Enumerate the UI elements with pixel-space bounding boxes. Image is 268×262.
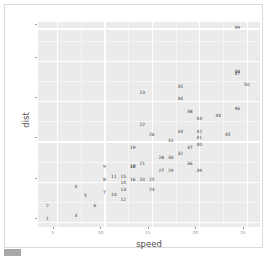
scatter-point-label: 1 xyxy=(46,217,49,221)
gridline-minor-horizontal xyxy=(38,41,260,42)
gridline-major-horizontal xyxy=(38,101,260,102)
scatter-point-label: 30 xyxy=(168,155,174,159)
scatter-point-label: 38 xyxy=(187,110,193,114)
x-axis-tick-label: 15 xyxy=(145,230,150,235)
gridline-major-horizontal xyxy=(38,28,260,29)
y-axis-tick-mark xyxy=(35,137,37,138)
scatter-point-label: 5 xyxy=(84,194,87,198)
scatter-point-label: 31 xyxy=(168,139,174,143)
gridline-major-vertical xyxy=(199,22,200,227)
scatter-point-label: 48 xyxy=(234,70,240,74)
scatter-point-label: 15 xyxy=(121,175,127,179)
y-axis-tick-mark xyxy=(35,24,37,25)
x-axis-tick-label: 10 xyxy=(98,230,103,235)
scatter-point-label: 36 xyxy=(187,162,193,166)
x-axis-tick-mark xyxy=(195,227,196,229)
scatter-point-label: 16 xyxy=(130,178,136,182)
y-axis-tick-mark xyxy=(35,218,37,219)
screenshot-root: 1234567891011121314151617181920212223242… xyxy=(0,0,268,262)
graphics-device-window: 1234567891011121314151617181920212223242… xyxy=(4,4,263,248)
x-axis-tick-label: 25 xyxy=(240,230,245,235)
gridline-major-vertical xyxy=(57,22,58,227)
x-axis-tick-label: 20 xyxy=(193,230,198,235)
scatter-point-label: 9 xyxy=(103,165,106,169)
scatter-point-label: 37 xyxy=(187,146,193,150)
taskbar-fragment xyxy=(4,249,21,256)
x-axis-tick-mark xyxy=(243,227,244,229)
gridline-major-horizontal xyxy=(38,61,260,62)
scatter-point-label: 43 xyxy=(196,117,202,121)
scatter-point-label: 11 xyxy=(111,175,117,179)
scatter-point-label: 45 xyxy=(225,133,231,137)
scatter-point-label: 14 xyxy=(121,181,127,185)
gridline-major-horizontal xyxy=(38,141,260,142)
scatter-point-label: 22 xyxy=(140,123,146,127)
y-axis-tick-mark xyxy=(35,97,37,98)
scatter-point-label: 35 xyxy=(178,84,184,88)
scatter-point-label: 41 xyxy=(196,136,202,140)
x-axis-tick-mark xyxy=(53,227,54,229)
y-axis-title: dist xyxy=(21,90,31,150)
gridline-major-horizontal xyxy=(38,222,260,223)
scatter-point-label: 2 xyxy=(46,204,49,208)
scatter-point-label: 28 xyxy=(159,155,165,159)
gridline-major-vertical xyxy=(104,22,105,227)
scatter-point-label: 26 xyxy=(149,133,155,137)
scatter-point-label: 34 xyxy=(178,97,184,101)
scatter-point-label: 7 xyxy=(103,191,106,195)
scatter-point-label: 27 xyxy=(159,168,165,172)
scatter-point-label: 33 xyxy=(178,130,184,134)
scatter-point-label: 50 xyxy=(244,83,250,87)
scatter-point-label: 40 xyxy=(196,142,202,146)
scatter-point-label: 49 xyxy=(234,26,240,30)
scatter-point-label: 44 xyxy=(215,113,221,117)
y-axis-tick-mark xyxy=(35,178,37,179)
gridline-minor-horizontal xyxy=(38,162,260,163)
scatter-point-label: 8 xyxy=(103,178,106,182)
scatter-point-label: 6 xyxy=(94,204,97,208)
gridline-minor-vertical xyxy=(128,22,129,227)
scatter-point-label: 20 xyxy=(140,178,146,182)
scatter-point-label: 12 xyxy=(121,197,127,201)
gridline-minor-horizontal xyxy=(38,81,260,82)
x-axis-tick-mark xyxy=(100,227,101,229)
scatter-point-label: 32 xyxy=(178,152,184,156)
scatter-point-label: 23 xyxy=(140,91,146,95)
scatter-point-label: 21 xyxy=(140,162,146,166)
plot-panel: 1234567891011121314151617181920212223242… xyxy=(38,22,260,227)
gridline-minor-horizontal xyxy=(38,121,260,122)
gridline-major-vertical xyxy=(247,22,248,227)
x-axis-title: speed xyxy=(38,239,260,249)
gridline-minor-vertical xyxy=(81,22,82,227)
scatter-point-label: 18 xyxy=(130,165,136,169)
gridline-minor-vertical xyxy=(223,22,224,227)
y-axis-tick-mark xyxy=(35,57,37,58)
scatter-point-label: 39 xyxy=(196,168,202,172)
scatter-point-label: 10 xyxy=(111,193,117,197)
scatter-point-label: 4 xyxy=(75,184,78,188)
scatter-point-label: 3 xyxy=(75,213,78,217)
gridline-major-vertical xyxy=(152,22,153,227)
scatter-point-label: 13 xyxy=(121,188,127,192)
scatter-point-label: 24 xyxy=(149,188,155,192)
scatter-point-label: 29 xyxy=(168,168,174,172)
scatter-point-label: 19 xyxy=(130,146,136,150)
x-axis-tick-label: 5 xyxy=(52,230,55,235)
gridline-minor-horizontal xyxy=(38,202,260,203)
scatter-point-label: 25 xyxy=(149,178,155,182)
gridline-minor-vertical xyxy=(176,22,177,227)
scatter-point-label: 42 xyxy=(196,130,202,134)
scatter-point-label: 46 xyxy=(234,107,240,111)
x-axis-tick-mark xyxy=(148,227,149,229)
